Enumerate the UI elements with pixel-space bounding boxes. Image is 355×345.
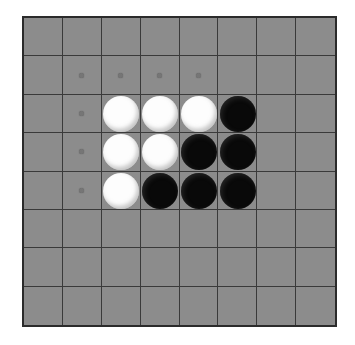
board-cell-r8-c3[interactable] [102, 287, 141, 325]
board-cell-r5-c1[interactable] [24, 172, 63, 210]
board-cell-r6-c3[interactable] [102, 210, 141, 248]
board-cell-r7-c3[interactable] [102, 248, 141, 286]
cell-marker-dot [196, 73, 201, 78]
board-cell-r7-c7[interactable] [257, 248, 296, 286]
black-stone-r5-c6[interactable] [220, 173, 256, 209]
board-cell-r2-c2[interactable] [63, 56, 102, 94]
board-summary: othello-reversi-board [0, 0, 1, 1]
white-stone-r3-c3[interactable] [103, 96, 139, 132]
board-cell-r6-c2[interactable] [63, 210, 102, 248]
board-grid [24, 18, 335, 325]
board-cell-r4-c7[interactable] [257, 133, 296, 171]
board-cell-r1-c5[interactable] [180, 18, 219, 56]
black-stone-r5-c5[interactable] [181, 173, 217, 209]
board-cell-r5-c7[interactable] [257, 172, 296, 210]
board-cell-r4-c8[interactable] [296, 133, 335, 171]
board-cell-r4-c1[interactable] [24, 133, 63, 171]
board-cell-r7-c4[interactable] [141, 248, 180, 286]
board-cell-r6-c5[interactable] [180, 210, 219, 248]
board-cell-r1-c4[interactable] [141, 18, 180, 56]
cell-marker-dot [118, 73, 123, 78]
board-cell-r4-c2[interactable] [63, 133, 102, 171]
board-cell-r6-c4[interactable] [141, 210, 180, 248]
board-cell-r8-c2[interactable] [63, 287, 102, 325]
board-cell-r2-c8[interactable] [296, 56, 335, 94]
board-cell-r5-c8[interactable] [296, 172, 335, 210]
white-stone-r3-c4[interactable] [142, 96, 178, 132]
cell-marker-dot [157, 73, 162, 78]
black-stone-r3-c6[interactable] [220, 96, 256, 132]
board-cell-r6-c6[interactable] [218, 210, 257, 248]
board-cell-r2-c6[interactable] [218, 56, 257, 94]
board-cell-r8-c6[interactable] [218, 287, 257, 325]
white-stone-r3-c5[interactable] [181, 96, 217, 132]
board-cell-r2-c7[interactable] [257, 56, 296, 94]
board-cell-r6-c1[interactable] [24, 210, 63, 248]
board-cell-r8-c5[interactable] [180, 287, 219, 325]
board-cell-r2-c3[interactable] [102, 56, 141, 94]
board-cell-r3-c1[interactable] [24, 95, 63, 133]
board-cell-r8-c8[interactable] [296, 287, 335, 325]
white-stone-r5-c3[interactable] [103, 173, 139, 209]
cell-marker-dot [79, 111, 84, 116]
board-cell-r1-c3[interactable] [102, 18, 141, 56]
black-stone-r5-c4[interactable] [142, 173, 178, 209]
board-cell-r6-c7[interactable] [257, 210, 296, 248]
board-cell-r1-c8[interactable] [296, 18, 335, 56]
board-cell-r7-c5[interactable] [180, 248, 219, 286]
board-cell-r8-c4[interactable] [141, 287, 180, 325]
board-cell-r7-c8[interactable] [296, 248, 335, 286]
board-cell-r8-c7[interactable] [257, 287, 296, 325]
board-cell-r2-c5[interactable] [180, 56, 219, 94]
board-cell-r1-c6[interactable] [218, 18, 257, 56]
cell-marker-dot [79, 149, 84, 154]
board-cell-r1-c1[interactable] [24, 18, 63, 56]
black-stone-r4-c6[interactable] [220, 134, 256, 170]
board-cell-r7-c1[interactable] [24, 248, 63, 286]
board-cell-r2-c4[interactable] [141, 56, 180, 94]
board-cell-r1-c7[interactable] [257, 18, 296, 56]
board-cell-r2-c1[interactable] [24, 56, 63, 94]
black-stone-r4-c5[interactable] [181, 134, 217, 170]
board-cell-r5-c2[interactable] [63, 172, 102, 210]
board-cell-r7-c2[interactable] [63, 248, 102, 286]
board-cell-r3-c8[interactable] [296, 95, 335, 133]
board-cell-r3-c2[interactable] [63, 95, 102, 133]
board-cell-r8-c1[interactable] [24, 287, 63, 325]
cell-marker-dot [79, 188, 84, 193]
cell-marker-dot [79, 73, 84, 78]
board-cell-r7-c6[interactable] [218, 248, 257, 286]
game-board[interactable] [22, 16, 337, 327]
board-cell-r1-c2[interactable] [63, 18, 102, 56]
board-cell-r3-c7[interactable] [257, 95, 296, 133]
board-cell-r6-c8[interactable] [296, 210, 335, 248]
